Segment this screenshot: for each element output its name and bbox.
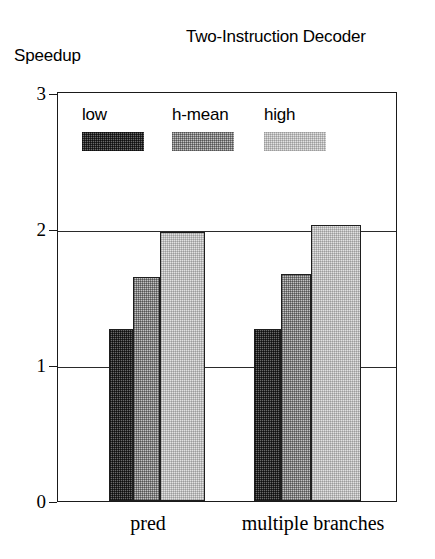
x-axis-label-pred: pred — [108, 511, 188, 535]
bar-multiple-branches-high — [311, 225, 361, 501]
legend-label-low: low — [82, 105, 144, 127]
legend-swatch-h-mean — [172, 132, 234, 151]
legend-swatch-low — [82, 132, 144, 151]
bar-pred-low — [109, 329, 133, 501]
y-tick-label-1: 1 — [6, 356, 46, 375]
legend-entry-low: low — [82, 105, 144, 151]
bar-pred-h-mean — [133, 277, 160, 501]
y-tick-mark-2 — [49, 230, 57, 231]
chart-legend: low h-mean high — [82, 105, 352, 161]
legend-label-high: high — [264, 105, 326, 127]
plot-area: low h-mean high — [57, 92, 397, 502]
legend-entry-h-mean: h-mean — [172, 105, 234, 151]
bar-multiple-branches-low — [254, 329, 281, 501]
y-tick-label-2: 2 — [6, 220, 46, 239]
y-tick-mark-1 — [49, 366, 57, 367]
y-tick-label-3: 3 — [6, 84, 46, 103]
legend-entry-high: high — [264, 105, 326, 151]
legend-label-h-mean: h-mean — [172, 105, 234, 127]
x-axis-label-multiple-branches: multiple branches — [228, 511, 398, 535]
legend-swatch-high — [264, 132, 326, 151]
y-tick-label-0: 0 — [6, 492, 46, 511]
y-tick-mark-3 — [49, 94, 57, 95]
chart-title: Two-Instruction Decoder — [186, 27, 366, 47]
y-tick-mark-0 — [49, 502, 57, 503]
bar-multiple-branches-h-mean — [281, 274, 311, 501]
y-axis-title: Speedup — [14, 46, 81, 66]
bar-pred-high — [160, 232, 205, 501]
